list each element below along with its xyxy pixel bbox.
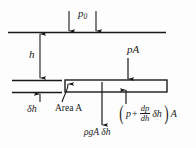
element-thickness-label: δh bbox=[27, 104, 37, 114]
area-symbol: A bbox=[171, 109, 177, 119]
weight-label: ρgA δh bbox=[84, 128, 110, 138]
area-label: Area A bbox=[55, 104, 82, 114]
open-paren: ( bbox=[119, 105, 123, 123]
surface-pressure-label: p0 bbox=[78, 8, 87, 19]
delta-h-term: δh bbox=[152, 109, 162, 119]
top-force-label: pA bbox=[127, 44, 139, 55]
fraction-denominator: dh bbox=[140, 114, 151, 123]
fraction-numerator: dp bbox=[140, 104, 151, 113]
close-paren: ) bbox=[164, 105, 168, 123]
fluid-element-slab bbox=[65, 80, 167, 92]
bottom-force-label: ( p + dp dh δh ) A bbox=[118, 104, 177, 123]
hydrostatic-pressure-diagram: p0 h δh Area A pA ρgA δh ( p + dp dh δh … bbox=[0, 0, 196, 148]
pressure-symbol: p bbox=[126, 109, 131, 119]
diagram-canvas bbox=[0, 0, 196, 148]
depth-label: h bbox=[29, 49, 35, 60]
plus-sign: + bbox=[132, 109, 138, 119]
pressure-gradient-fraction: dp dh bbox=[140, 104, 151, 123]
